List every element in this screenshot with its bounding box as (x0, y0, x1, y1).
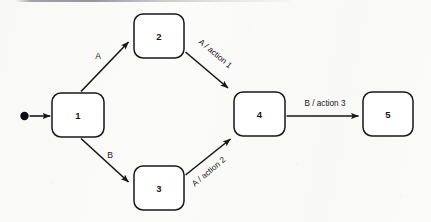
states-layer: 1 2 3 4 5 (52, 14, 413, 210)
edge-label-1-to-3: B (107, 150, 113, 160)
edge-label-3-to-4: A / action 2 (190, 155, 227, 188)
initial-state-dot (20, 112, 28, 120)
state-node-4[interactable]: 4 (234, 92, 285, 136)
diagram-canvas: 1 2 3 4 5 A B A / action 1 (0, 0, 431, 222)
edge-labels-layer: A B A / action 1 A / action 2 B / action… (95, 37, 346, 188)
state-node-2[interactable]: 2 (134, 14, 184, 58)
edge-path-1-to-3 (81, 139, 129, 183)
state-label-3: 3 (156, 183, 161, 194)
state-label-5: 5 (385, 109, 391, 120)
state-node-3[interactable]: 3 (134, 166, 184, 210)
state-node-5[interactable]: 5 (363, 92, 413, 136)
state-label-4: 4 (257, 109, 263, 120)
edge-path-1-to-2 (81, 42, 129, 92)
edge-label-1-to-2: A (95, 51, 101, 61)
edge-label-4-to-5: B / action 3 (305, 99, 346, 108)
state-node-1[interactable]: 1 (52, 93, 104, 137)
state-label-2: 2 (156, 31, 161, 42)
transition-1-to-3[interactable] (81, 139, 129, 183)
transition-1-to-2[interactable] (81, 42, 129, 92)
state-transition-diagram: 1 2 3 4 5 A B A / action 1 (0, 0, 431, 222)
state-label-1: 1 (75, 110, 81, 121)
